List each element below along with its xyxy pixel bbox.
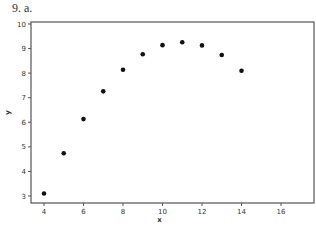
x-tick-label: 6 [81,208,86,216]
plot-frame [31,22,314,203]
y-tick-label: 5 [22,143,26,151]
x-tick-label: 10 [158,208,167,216]
x-tick-label: 8 [121,208,125,216]
x-tick-label: 14 [237,208,246,216]
y-tick-label: 4 [22,168,27,176]
data-point [61,151,66,156]
data-point [180,40,185,45]
data-point [121,67,126,72]
x-tick-label: 16 [277,208,286,216]
y-tick-label: 10 [17,21,26,29]
x-axis-label: x [157,216,162,224]
scatter-chart: 34567891046810121416xy [0,0,316,227]
data-point [81,117,86,122]
y-tick-label: 3 [22,193,26,201]
x-tick-label: 12 [198,208,207,216]
data-point [219,53,224,58]
y-tick-label: 6 [22,119,27,127]
data-point [140,52,145,57]
data-point [160,43,165,48]
x-tick-label: 4 [42,208,47,216]
y-tick-label: 7 [22,94,26,102]
data-point [239,68,244,73]
y-axis-label: y [4,110,12,115]
data-point [200,43,205,48]
y-tick-label: 9 [22,45,26,53]
y-tick-label: 8 [22,70,26,78]
data-point [42,191,47,196]
data-point [101,89,106,94]
